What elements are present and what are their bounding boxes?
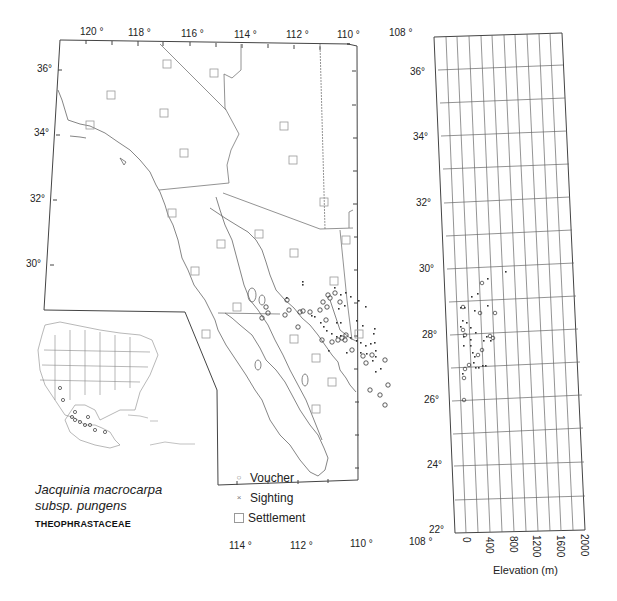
legend-sighting: × Sighting xyxy=(232,488,305,508)
sighting-cross-icon: × xyxy=(232,488,246,508)
lat-label-left-34: 34° xyxy=(34,127,49,138)
lat-label-right-32: 32° xyxy=(416,197,431,208)
species-line-1: Jacquinia macrocarpa xyxy=(35,482,162,498)
elev-tick-1200: 1200 xyxy=(531,535,542,557)
elev-tick-800: 800 xyxy=(508,536,519,553)
map-legend: ○ Voucher × Sighting Settlement xyxy=(232,468,305,528)
voucher-circle-icon: ○ xyxy=(232,468,246,488)
lat-label-right-22: 22° xyxy=(429,524,444,535)
lon-label-108: 108 ° xyxy=(389,27,412,38)
coastlines xyxy=(58,90,358,476)
legend-voucher: ○ Voucher xyxy=(232,468,305,488)
inset-points xyxy=(58,386,106,433)
inset-north-america xyxy=(38,322,158,448)
species-name: Jacquinia macrocarpa subsp. pungens xyxy=(35,482,162,514)
lat-label-right-34: 34° xyxy=(413,131,428,142)
lon-label-bottom-114: 114 ° xyxy=(229,540,252,551)
elevation-sightings xyxy=(460,271,507,375)
lon-label-bottom-110: 110 ° xyxy=(350,538,373,549)
elev-tick-400: 400 xyxy=(484,537,495,554)
settlement-markers xyxy=(86,60,363,413)
family-name: THEOPHRASTACEAE xyxy=(35,519,131,529)
legend-voucher-label: Voucher xyxy=(250,468,294,488)
elevation-axis-title: Elevation (m) xyxy=(493,564,558,576)
main-map-frame xyxy=(44,40,358,485)
map-border xyxy=(44,40,358,485)
elev-tick-1600: 1600 xyxy=(555,535,566,557)
lat-label-left-36: 36° xyxy=(37,63,52,74)
legend-sighting-label: Sighting xyxy=(250,488,293,508)
lat-label-right-36: 36° xyxy=(410,66,425,77)
lon-label-116: 116 ° xyxy=(181,28,204,39)
elevation-grid xyxy=(434,33,585,533)
caribbean-islands xyxy=(128,415,195,445)
lat-label-right-26: 26° xyxy=(424,394,439,405)
lon-label-bottom-112: 112 ° xyxy=(290,540,313,551)
elev-tick-2000: 2000 xyxy=(579,534,590,556)
species-line-2: subsp. pungens xyxy=(35,498,162,514)
lat-label-right-30: 30° xyxy=(419,263,434,274)
settlement-square-icon xyxy=(234,513,244,523)
lon-label-120: 120 ° xyxy=(80,26,103,37)
legend-settlement-label: Settlement xyxy=(248,508,305,528)
lon-label-110: 110 ° xyxy=(337,29,360,40)
lat-label-left-32: 32° xyxy=(30,193,45,204)
lat-label-right-28: 28° xyxy=(422,329,437,340)
lon-label-bottom-108: 108 ° xyxy=(409,536,432,547)
elev-tick-0: 0 xyxy=(461,537,472,543)
lon-label-112: 112 ° xyxy=(286,29,309,40)
lon-label-118: 118 ° xyxy=(128,27,151,38)
legend-settlement: Settlement xyxy=(232,508,305,528)
lon-label-114: 114 ° xyxy=(234,29,257,40)
lat-label-right-24: 24° xyxy=(427,459,442,470)
lat-label-left-30: 30° xyxy=(26,258,41,269)
